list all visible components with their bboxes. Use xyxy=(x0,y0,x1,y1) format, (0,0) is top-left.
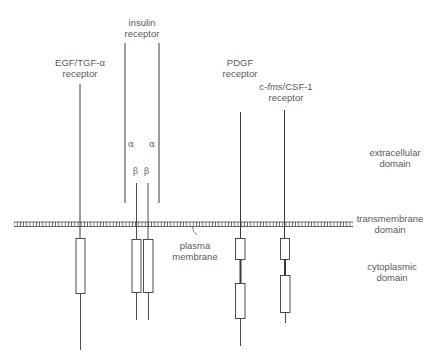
extracellular-line2: domain xyxy=(363,158,427,169)
plasma-line2: membrane xyxy=(171,251,219,262)
receptor-diagram xyxy=(0,0,440,363)
pdgf-label-line1: PDGF xyxy=(220,57,260,68)
plasma-membrane-label: plasma membrane xyxy=(171,240,219,262)
pdgf-label-line2: receptor xyxy=(220,68,260,79)
transmembrane-domain-label: transmembrane domain xyxy=(355,213,425,235)
cytoplasmic-line2: domain xyxy=(362,272,422,283)
beta-label-left: β xyxy=(133,166,138,176)
cfms-receptor xyxy=(281,110,291,323)
cfms-suffix: /CSF-1 xyxy=(283,81,313,92)
transmembrane-line1: transmembrane xyxy=(355,213,425,224)
egf-label-line1: EGF/TGF-α xyxy=(52,57,108,68)
egf-receptor xyxy=(76,84,85,350)
cfms-italic: fms xyxy=(267,81,282,92)
cfms-label-line1: c-fms/CSF-1 xyxy=(256,81,316,92)
cytoplasmic-line1: cytoplasmic xyxy=(362,261,422,272)
pdgf-receptor-label: PDGF receptor xyxy=(220,57,260,79)
alpha-label-left: α xyxy=(128,139,134,149)
beta-label-right: β xyxy=(144,166,149,176)
alpha-label-right: α xyxy=(149,139,155,149)
egf-receptor-label: EGF/TGF-α receptor xyxy=(52,57,108,79)
extracellular-line1: extracellular xyxy=(363,147,427,158)
egf-label-line2: receptor xyxy=(52,68,108,79)
cfms-receptor-label: c-fms/CSF-1 receptor xyxy=(256,81,316,103)
extracellular-domain-label: extracellular domain xyxy=(363,147,427,169)
plasma-membrane xyxy=(14,222,353,235)
plasma-line1: plasma xyxy=(171,240,219,251)
pdgf-receptor xyxy=(236,112,246,346)
transmembrane-line2: domain xyxy=(355,224,425,235)
cfms-label-line2: receptor xyxy=(256,92,316,103)
insulin-label-line1: insulin xyxy=(118,17,166,28)
insulin-receptor-label: insulin receptor xyxy=(118,17,166,39)
cytoplasmic-domain-label: cytoplasmic domain xyxy=(362,261,422,283)
insulin-label-line2: receptor xyxy=(118,28,166,39)
insulin-receptor xyxy=(125,43,159,320)
